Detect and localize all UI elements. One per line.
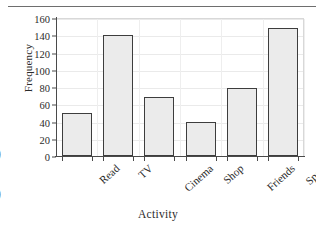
y-axis-tick-label: 120: [34, 48, 50, 59]
y-axis-line: [56, 17, 57, 157]
bar-read: [62, 113, 92, 156]
x-axis-tick-label: Friends: [264, 162, 297, 193]
bar-chart-figure: Frequency 020406080100120140160 ReadTVCi…: [0, 0, 316, 232]
bar-cinema: [144, 97, 174, 157]
x-gridline: [180, 19, 181, 156]
x-axis-line: [55, 156, 305, 157]
y-axis-tick-label: 60: [40, 100, 51, 111]
plot-area: 020406080100120140160: [56, 18, 304, 156]
x-axis-tick-label: TV: [136, 162, 155, 181]
x-axis-title: Activity: [0, 208, 316, 220]
bar-friends: [227, 88, 257, 156]
y-axis-tick-label: 100: [34, 65, 50, 76]
x-axis-tick-label: Cinema: [182, 162, 215, 194]
x-gridline: [263, 19, 264, 156]
bar-shop: [186, 122, 216, 156]
y-axis-tick-label: 20: [40, 134, 51, 145]
bar-sport: [268, 28, 298, 156]
x-axis-tick-label: Read: [96, 162, 121, 186]
x-axis-tick-label: Sport: [303, 162, 316, 187]
x-gridline: [221, 19, 222, 156]
y-axis-tick-label: 160: [34, 14, 50, 25]
y-axis-tick-label: 140: [34, 31, 50, 42]
x-gridline: [304, 19, 305, 156]
y-axis-tick-label: 40: [40, 117, 51, 128]
bar-tv: [103, 35, 133, 156]
x-gridline: [97, 19, 98, 156]
y-axis-tick-label: 0: [45, 152, 50, 163]
x-axis-tick-label: Shop: [220, 162, 245, 186]
y-axis-tick-label: 80: [40, 83, 51, 94]
y-axis-title: Frequency: [22, 20, 34, 116]
x-gridline: [139, 19, 140, 156]
